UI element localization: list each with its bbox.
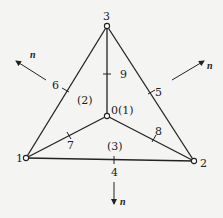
element-label-1: (1) — [118, 104, 134, 117]
node-label-0: 0 — [111, 104, 118, 117]
node-label-3: 3 — [103, 10, 110, 23]
midpoint-label-4: 4 — [111, 166, 118, 179]
node-1 — [23, 155, 28, 160]
element-label-3: (3) — [107, 140, 123, 153]
normal-label-bottom: n — [120, 196, 126, 207]
midpoint-label-9: 9 — [120, 68, 127, 81]
normal-label-left: n — [30, 49, 36, 60]
normal-arrow-left — [16, 61, 46, 80]
node-label-1: 1 — [16, 152, 23, 165]
diagram-svg: 3 1 2 0 (1) (2) (3) 4 5 6 7 8 9 n n n — [0, 0, 223, 218]
midpoint-label-7: 7 — [67, 139, 74, 152]
midpoint-label-6: 6 — [52, 79, 59, 92]
triangle-mesh-diagram: 3 1 2 0 (1) (2) (3) 4 5 6 7 8 9 n n n — [0, 0, 223, 218]
element-label-2: (2) — [77, 94, 93, 107]
edge-0-2 — [107, 116, 194, 161]
node-2 — [191, 158, 196, 163]
node-3 — [104, 23, 109, 28]
edge-1-2 — [26, 158, 194, 161]
midpoint-label-5: 5 — [155, 86, 162, 99]
midpoint-label-8: 8 — [155, 125, 162, 138]
node-label-2: 2 — [200, 157, 207, 170]
normal-label-right: n — [207, 60, 213, 71]
normal-arrow-right — [172, 61, 204, 80]
node-0 — [104, 113, 109, 118]
